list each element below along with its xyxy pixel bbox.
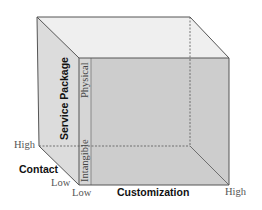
front-face [79,58,229,185]
vertical-axis-title: Service Package [59,57,70,140]
depth-axis-high-label: High [14,140,35,151]
horizontal-axis-high-label: High [225,187,246,198]
vertical-axis-low-label: Intangible [80,139,91,182]
horizontal-axis-title: Customization [117,187,189,198]
vertical-axis-high-label: Physical [80,62,91,98]
horizontal-axis-low-label: Low [72,188,91,199]
cube-diagram [0,0,262,210]
depth-axis-low-label: Low [51,178,70,189]
depth-axis-title: Contact [19,164,58,175]
